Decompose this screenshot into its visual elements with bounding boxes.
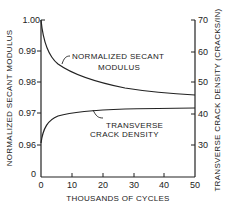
crack-annotation: CRACK DENSITY — [90, 130, 159, 139]
left-tick-label: 0.96 — [18, 140, 36, 150]
left-tick-label: 0 — [31, 169, 36, 179]
chart-canvas: 1.00 0.99 0.98 0.97 0.96 0 70 60 50 40 3… — [0, 0, 226, 207]
modulus-annotation: NORMALIZED SECANT — [72, 52, 164, 61]
left-tick-label: 0.99 — [18, 46, 36, 56]
right-tick-label: 30 — [198, 140, 208, 150]
right-axis-label: TRANSVERSE CRACK DENSITY (CRACKS/IN) — [213, 8, 222, 191]
x-tick-label: 0 — [38, 180, 43, 190]
right-tick-label: 70 — [198, 15, 208, 25]
x-tick-labels: 0 10 20 30 40 50 — [38, 180, 200, 190]
crack-annotation: TRANSVERSE — [106, 121, 163, 130]
modulus-annotation: MODULUS — [98, 63, 140, 72]
right-tick-label: 60 — [198, 47, 208, 57]
modulus-leader — [62, 56, 70, 64]
x-axis-label: THOUSANDS OF CYCLES — [66, 194, 170, 203]
left-tick-label: 1.00 — [22, 15, 40, 25]
left-tick-label: 0.98 — [18, 77, 36, 87]
left-tick-labels: 1.00 0.99 0.98 0.97 0.96 0 — [18, 15, 40, 179]
x-tick-label: 20 — [98, 180, 108, 190]
right-tick-label: 50 — [198, 77, 208, 87]
x-tick-label: 30 — [129, 180, 139, 190]
x-tick-label: 40 — [159, 180, 169, 190]
x-tick-label: 50 — [190, 180, 200, 190]
left-tick-label: 0.97 — [18, 108, 36, 118]
x-tick-label: 10 — [67, 180, 77, 190]
right-tick-label: 40 — [198, 109, 208, 119]
left-axis-label: NORMALIZED SECANT MODULUS — [5, 30, 14, 167]
right-tick-labels: 70 60 50 40 30 — [198, 15, 208, 150]
